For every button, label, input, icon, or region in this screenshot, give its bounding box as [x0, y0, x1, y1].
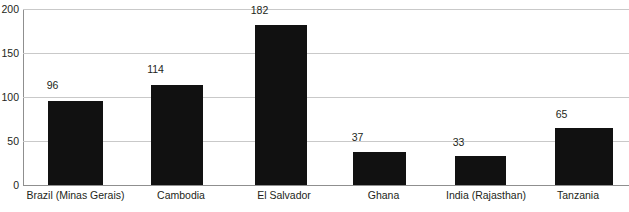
bar-el-salvador[interactable] — [255, 25, 307, 185]
bar-value-tanzania: 65 — [539, 109, 584, 120]
y-tick-label-50: 50 — [7, 136, 19, 147]
bar-brazil[interactable] — [48, 101, 103, 186]
bar-cambodia[interactable] — [151, 85, 203, 185]
gridline-50 — [23, 141, 629, 142]
y-axis-labels: 200 150 100 50 0 — [0, 0, 19, 212]
gridline-0 — [23, 185, 629, 186]
plot-area — [23, 9, 629, 185]
gridline-200 — [23, 9, 629, 10]
category-label-brazil: Brazil (Minas Gerais) — [8, 190, 143, 202]
gridline-100 — [23, 97, 629, 98]
y-tick-label-100: 100 — [1, 92, 19, 103]
bar-value-brazil: 96 — [30, 80, 75, 91]
y-tick-label-200: 200 — [1, 4, 19, 15]
category-label-cambodia: Cambodia — [126, 190, 236, 202]
y-tick-label-150: 150 — [1, 48, 19, 59]
y-tick-label-0: 0 — [13, 180, 19, 191]
gridline-150 — [23, 53, 629, 54]
category-label-tanzania: Tanzania — [528, 190, 628, 202]
category-label-el-salvador: El Salvador — [229, 190, 339, 202]
bar-value-cambodia: 114 — [133, 64, 178, 75]
bar-ghana[interactable] — [353, 152, 406, 185]
bar-tanzania[interactable] — [555, 128, 613, 185]
bar-value-el-salvador: 182 — [237, 5, 282, 16]
bar-value-ghana: 37 — [335, 132, 380, 143]
bar-chart: 200 150 100 50 0 96 114 182 37 33 65 Bra… — [0, 0, 629, 212]
bar-value-india: 33 — [436, 137, 481, 148]
bar-india[interactable] — [455, 156, 506, 185]
